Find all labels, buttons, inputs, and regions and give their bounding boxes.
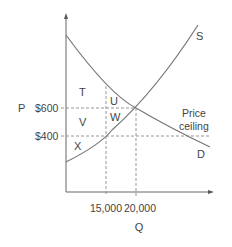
price-ceiling-label-2: ceiling	[179, 120, 209, 132]
region-w-label: W	[110, 111, 121, 123]
x-axis-arrow-icon	[208, 190, 214, 194]
supply-curve	[66, 25, 198, 162]
region-x-label: X	[74, 140, 82, 152]
supply-demand-chart: P $600 $400 15,000 20,000 Q S D Price ce…	[0, 0, 232, 247]
guide-lines	[61, 86, 210, 196]
region-v-label: V	[79, 116, 87, 128]
region-t-label: T	[79, 86, 86, 98]
tick-label-600: $600	[35, 102, 59, 114]
q-axis-label: Q	[135, 221, 144, 233]
price-ceiling-label-1: Price	[182, 107, 206, 119]
tick-label-15000: 15,000	[90, 202, 122, 214]
tick-label-20000: 20,000	[124, 202, 156, 214]
demand-label: D	[197, 148, 205, 160]
tick-label-400: $400	[35, 130, 59, 142]
y-axis-arrow-icon	[64, 13, 68, 19]
region-u-label: U	[110, 95, 118, 107]
supply-label: S	[196, 30, 203, 42]
p-axis-label: P	[18, 102, 25, 114]
